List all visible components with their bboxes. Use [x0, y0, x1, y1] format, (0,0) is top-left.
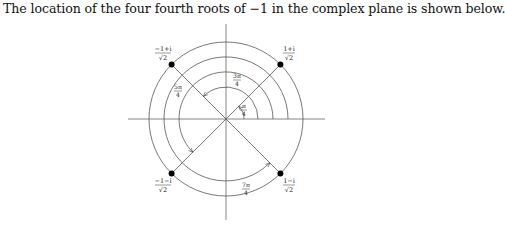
svg-text:4: 4 — [176, 91, 180, 98]
root-label-3: −1−i √2 — [154, 177, 171, 194]
svg-text:1+i: 1+i — [283, 45, 295, 53]
angle-label-pi-4: π 4 — [241, 102, 247, 117]
svg-text:3π: 3π — [233, 72, 241, 79]
svg-text:√2: √2 — [285, 186, 293, 194]
root-dot-4 — [277, 170, 283, 176]
root-label-4: 1−i √2 — [283, 177, 295, 194]
svg-text:1−i: 1−i — [283, 177, 295, 185]
svg-text:−1+i: −1+i — [154, 45, 171, 53]
svg-text:4: 4 — [242, 110, 246, 117]
root-label-2: −1+i √2 — [154, 45, 171, 62]
angle-label-3pi-4: 3π 4 — [233, 72, 241, 87]
svg-text:√2: √2 — [159, 54, 167, 62]
svg-text:√2: √2 — [285, 54, 293, 62]
angle-label-7pi-4: 7π 4 — [242, 181, 250, 196]
svg-text:√2: √2 — [159, 186, 167, 194]
svg-text:4: 4 — [235, 80, 239, 87]
root-dot-3 — [169, 170, 175, 176]
ray-7pi-4 — [226, 119, 280, 173]
svg-text:4: 4 — [244, 189, 248, 196]
svg-text:−1−i: −1−i — [154, 177, 171, 185]
svg-text:7π: 7π — [242, 181, 250, 188]
svg-text:π: π — [242, 102, 246, 109]
svg-text:5π: 5π — [174, 83, 182, 90]
root-label-1: 1+i √2 — [283, 45, 295, 62]
root-dot-2 — [169, 62, 175, 68]
root-dot-1 — [277, 62, 283, 68]
angle-label-5pi-4: 5π 4 — [174, 83, 182, 98]
